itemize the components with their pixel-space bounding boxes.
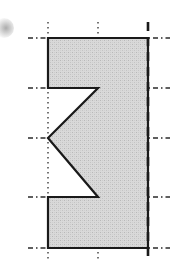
technical-drawing-svg: [0, 0, 176, 274]
figure-canvas: [0, 0, 176, 274]
notched-rectangle-fill: [48, 38, 148, 248]
